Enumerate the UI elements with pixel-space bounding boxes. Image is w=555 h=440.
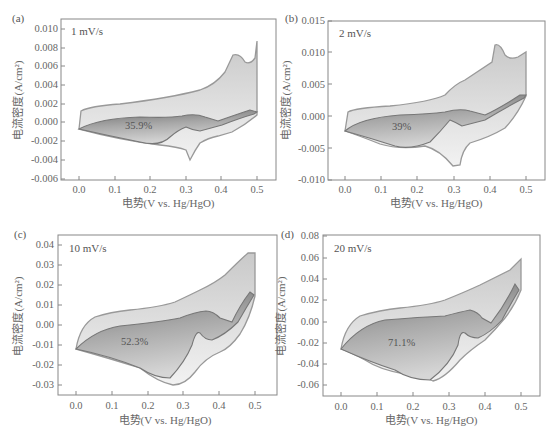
percent-label-d: 71.1%: [388, 337, 415, 348]
svg-text:0.008: 0.008: [34, 42, 58, 53]
y-axis-b: 0.015 0.010 0.005 0.000 -0.005 -0.010: [298, 15, 332, 185]
svg-text:0.2: 0.2: [141, 400, 154, 411]
svg-text:0.2: 0.2: [143, 184, 156, 195]
panel-label-a: (a): [12, 12, 25, 25]
svg-text:0.01: 0.01: [36, 299, 54, 310]
svg-text:0.1: 0.1: [108, 184, 121, 195]
svg-text:0.0: 0.0: [69, 400, 82, 411]
x-axis-a: 0.0 0.1 0.2 0.3 0.4 0.5: [72, 176, 263, 195]
total-cv-curve-a: [79, 41, 257, 160]
svg-text:0.015: 0.015: [301, 15, 325, 26]
scan-rate-label-d: 20 mV/s: [334, 242, 372, 254]
x-axis-d: 0.0 0.1 0.2 0.3 0.4 0.5: [334, 392, 527, 412]
svg-text:0.4: 0.4: [483, 184, 497, 195]
svg-text:0.0: 0.0: [334, 401, 347, 412]
svg-text:0.04: 0.04: [36, 239, 55, 250]
svg-text:0.00: 0.00: [301, 316, 319, 327]
percent-label-c: 52.3%: [121, 336, 148, 347]
svg-text:0.0: 0.0: [338, 184, 351, 195]
svg-text:0.3: 0.3: [442, 401, 455, 412]
x-axis-title-c: 电势(V vs. Hg/HgO): [119, 414, 212, 427]
svg-text:0.004: 0.004: [34, 79, 58, 90]
svg-text:-0.02: -0.02: [32, 359, 54, 370]
svg-text:0.005: 0.005: [301, 79, 325, 90]
svg-text:0.4: 0.4: [212, 400, 226, 411]
y-axis-title-a: 电流密度(A/cm²): [11, 60, 25, 139]
svg-text:0.1: 0.1: [370, 401, 383, 412]
svg-text:0.3: 0.3: [447, 184, 460, 195]
svg-text:0.04: 0.04: [301, 273, 320, 284]
svg-text:0.2: 0.2: [410, 184, 423, 195]
svg-text:0.02: 0.02: [301, 294, 319, 305]
x-axis-title-d: 电势(V vs. Hg/HgO): [385, 414, 478, 427]
svg-text:0.08: 0.08: [301, 230, 319, 241]
panel-label-d: (d): [281, 228, 294, 241]
percent-label-b: 39%: [392, 121, 412, 132]
svg-text:0.5: 0.5: [248, 400, 261, 411]
y-axis-a: 0.010 0.008 0.006 0.004 0.002 0.000 -0.0…: [31, 23, 65, 184]
total-cv-curve-b: [345, 45, 526, 166]
svg-text:0.06: 0.06: [301, 252, 319, 263]
cv-figure: (a) 0.010 0.008 0.006 0.004 0.002 0.000 …: [0, 0, 555, 440]
svg-text:0.5: 0.5: [519, 184, 532, 195]
panel-d: (d) 0.08 0.06 0.04 0.02 0.00 -0.02 -0.04…: [274, 228, 540, 427]
svg-text:0.010: 0.010: [301, 47, 325, 58]
svg-text:0.000: 0.000: [34, 116, 58, 127]
svg-text:-0.004: -0.004: [31, 154, 59, 165]
scan-rate-label-c: 10 mV/s: [69, 242, 107, 254]
panel-label-c: (c): [14, 228, 27, 241]
svg-text:-0.01: -0.01: [32, 339, 54, 350]
svg-text:0.002: 0.002: [34, 98, 58, 109]
percent-label-a: 35.9%: [125, 120, 152, 131]
svg-text:0.000: 0.000: [301, 111, 325, 122]
svg-text:-0.03: -0.03: [32, 379, 54, 390]
svg-text:0.03: 0.03: [36, 259, 54, 270]
svg-text:0.00: 0.00: [36, 319, 54, 330]
scan-rate-label-a: 1 mV/s: [71, 25, 103, 37]
svg-text:0.3: 0.3: [179, 184, 192, 195]
svg-text:0.4: 0.4: [214, 184, 228, 195]
svg-text:0.02: 0.02: [36, 279, 54, 290]
svg-text:0.2: 0.2: [406, 401, 419, 412]
svg-text:0.4: 0.4: [478, 401, 492, 412]
panel-b: (b) 0.015 0.010 0.005 0.000 -0.005 -0.01…: [279, 12, 545, 210]
svg-text:-0.010: -0.010: [298, 174, 325, 185]
svg-text:0.1: 0.1: [374, 184, 387, 195]
x-axis-c: 0.0 0.1 0.2 0.3 0.4 0.5: [69, 391, 261, 411]
y-axis-title-d: 电流密度(A/cm²): [274, 276, 288, 355]
svg-text:0.3: 0.3: [176, 400, 189, 411]
svg-text:-0.06: -0.06: [297, 379, 319, 390]
svg-text:-0.02: -0.02: [297, 337, 319, 348]
svg-text:0.0: 0.0: [72, 184, 85, 195]
panel-c: (c) 0.04 0.03 0.02 0.01 0.00 -0.01 -0.02…: [11, 228, 277, 427]
svg-text:-0.005: -0.005: [298, 143, 325, 154]
svg-text:0.5: 0.5: [514, 401, 527, 412]
x-axis-b: 0.0 0.1 0.2 0.3 0.4 0.5: [338, 176, 532, 195]
svg-text:0.006: 0.006: [34, 60, 58, 71]
y-axis-title-b: 电流密度(A/cm²): [279, 60, 293, 139]
svg-text:0.010: 0.010: [34, 23, 58, 34]
x-axis-title-a: 电势(V vs. Hg/HgO): [122, 197, 215, 210]
svg-text:0.5: 0.5: [250, 184, 263, 195]
panel-a: (a) 0.010 0.008 0.006 0.004 0.002 0.000 …: [11, 12, 276, 210]
panel-label-b: (b): [285, 12, 298, 25]
svg-text:-0.002: -0.002: [31, 135, 58, 146]
svg-text:-0.006: -0.006: [31, 173, 58, 184]
scan-rate-label-b: 2 mV/s: [339, 27, 371, 39]
svg-text:-0.04: -0.04: [297, 358, 320, 369]
y-axis-title-c: 电流密度(A/cm²): [11, 276, 25, 355]
svg-text:0.1: 0.1: [105, 400, 118, 411]
x-axis-title-b: 电势(V vs. Hg/HgO): [390, 197, 483, 210]
